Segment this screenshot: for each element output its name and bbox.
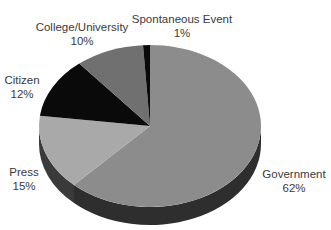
label-spontaneous-event-pct: 1% xyxy=(132,26,232,40)
label-citizen-pct: 12% xyxy=(4,87,39,101)
label-spontaneous-event: Spontaneous Event 1% xyxy=(132,12,232,40)
label-citizen-name: Citizen xyxy=(4,73,39,87)
label-spontaneous-event-name: Spontaneous Event xyxy=(132,12,232,26)
label-press-name: Press xyxy=(9,165,38,179)
label-press: Press 15% xyxy=(9,165,38,193)
label-government-name: Government xyxy=(262,167,325,181)
label-college-university: College/University 10% xyxy=(36,20,129,48)
label-college-university-pct: 10% xyxy=(36,34,129,48)
label-government: Government 62% xyxy=(262,167,325,195)
pie-top-face xyxy=(39,45,261,207)
label-citizen: Citizen 12% xyxy=(4,73,39,101)
label-college-university-name: College/University xyxy=(36,20,129,34)
label-press-pct: 15% xyxy=(9,179,38,193)
label-government-pct: 62% xyxy=(262,181,325,195)
